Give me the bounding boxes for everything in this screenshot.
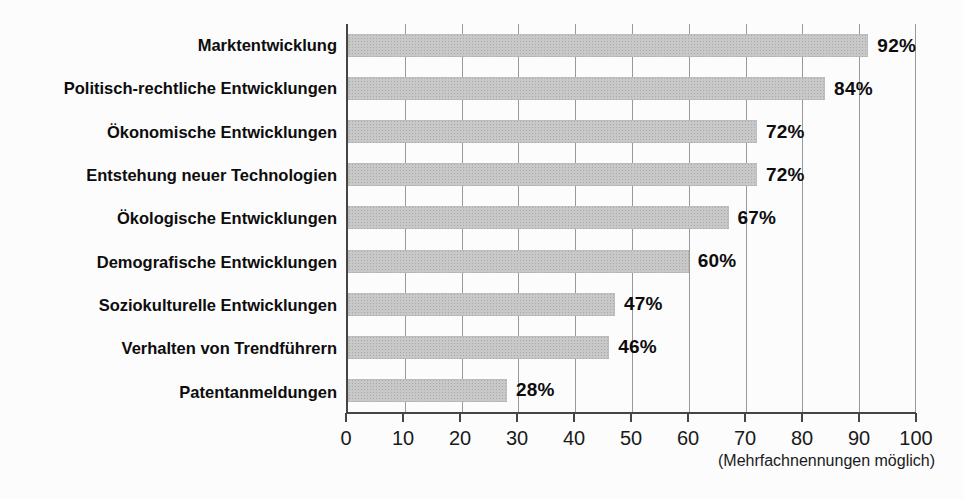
bar-row: 84% (348, 67, 916, 110)
tick-label: 60 (677, 427, 699, 450)
tick-mark (630, 413, 632, 422)
bar-value-label: 60% (698, 250, 737, 272)
category-label: Marktentwicklung (0, 24, 337, 67)
tick-mark (459, 413, 461, 422)
tick-label: 80 (791, 427, 813, 450)
tick-label: 40 (563, 427, 585, 450)
bar-row: 67% (348, 196, 916, 239)
bar (348, 206, 729, 229)
plot-area: 92% 84% 72% 72% 67% 60% (346, 24, 916, 414)
category-axis-labels: Marktentwicklung Politisch-rechtliche En… (0, 24, 337, 414)
tick-mark (915, 413, 917, 422)
tick-mark (744, 413, 746, 422)
bar (348, 379, 507, 402)
tick-label: 20 (449, 427, 471, 450)
category-label: Ökologische Entwicklungen (0, 197, 337, 240)
tick-label: 100 (899, 427, 932, 450)
bar-value-label: 72% (766, 121, 805, 143)
x-axis-tick-marks (346, 413, 916, 422)
tick-label: 10 (392, 427, 414, 450)
footnote: (Mehrfachnennungen möglich) (718, 452, 935, 470)
bar (348, 293, 615, 316)
tick-mark (858, 413, 860, 422)
tick-mark (516, 413, 518, 422)
category-label: Soziokulturelle Entwicklungen (0, 284, 337, 327)
bar-row: 46% (348, 326, 916, 369)
bar-rows: 92% 84% 72% 72% 67% 60% (348, 24, 916, 412)
bar (348, 336, 609, 359)
category-label: Patentanmeldungen (0, 371, 337, 414)
tick-mark (402, 413, 404, 422)
tick-label: 30 (506, 427, 528, 450)
bar-row: 28% (348, 369, 916, 412)
bar-row: 92% (348, 24, 916, 67)
category-label: Ökonomische Entwicklungen (0, 111, 337, 154)
tick-label: 50 (620, 427, 642, 450)
bar-value-label: 67% (738, 207, 777, 229)
x-axis-tick-labels: 0 10 20 30 40 50 60 70 80 90 100 (346, 427, 916, 451)
bar-row: 60% (348, 240, 916, 283)
bar-value-label: 72% (766, 164, 805, 186)
category-label: Entstehung neuer Technologien (0, 154, 337, 197)
bar-value-label: 84% (834, 78, 873, 100)
bar-value-label: 92% (877, 35, 916, 57)
bar (348, 34, 868, 57)
category-label: Demografische Entwicklungen (0, 241, 337, 284)
tick-mark (345, 413, 347, 422)
category-label: Verhalten von Trendführern (0, 327, 337, 370)
tick-mark (573, 413, 575, 422)
tick-label: 0 (340, 427, 351, 450)
bar (348, 77, 825, 100)
tick-mark (687, 413, 689, 422)
bar-value-label: 46% (618, 336, 657, 358)
tick-label: 70 (734, 427, 756, 450)
bar-value-label: 28% (516, 379, 555, 401)
bar-chart-figure: Marktentwicklung Politisch-rechtliche En… (0, 0, 964, 499)
bar (348, 250, 689, 273)
bar (348, 163, 757, 186)
bar-value-label: 47% (624, 293, 663, 315)
bar-row: 72% (348, 153, 916, 196)
tick-mark (801, 413, 803, 422)
bar (348, 120, 757, 143)
tick-label: 90 (848, 427, 870, 450)
category-label: Politisch-rechtliche Entwicklungen (0, 67, 337, 110)
bar-row: 47% (348, 283, 916, 326)
bar-row: 72% (348, 110, 916, 153)
